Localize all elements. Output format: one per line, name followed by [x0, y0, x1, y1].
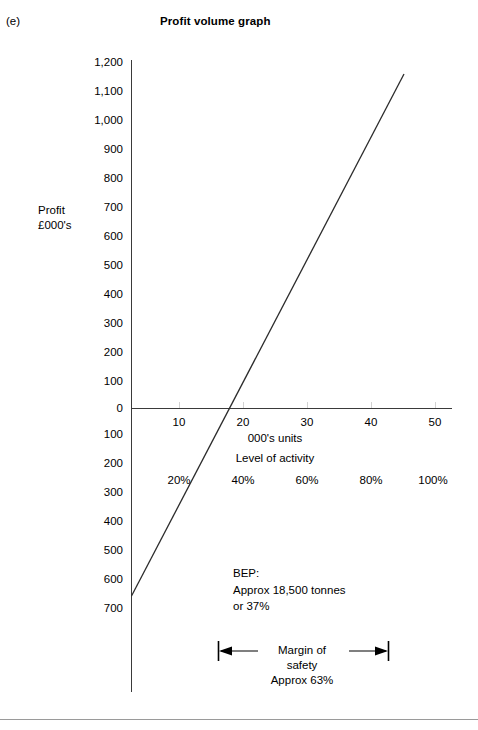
margin-of-safety-line2: safety — [244, 658, 360, 673]
margin-of-safety-percent: Approx 63% — [244, 673, 360, 687]
bep-tonnes: Approx 18,500 tonnes — [233, 582, 346, 599]
margin-left-arrowhead-icon — [219, 647, 232, 656]
margin-right-arrowhead-icon — [375, 647, 388, 656]
profit-volume-graph-page: (e) Profit volume graph 1,200 1,100 1,00… — [0, 0, 478, 730]
chart-overlay — [0, 0, 478, 730]
bep-label: BEP: — [233, 565, 346, 582]
margin-of-safety-label: Margin of safety — [244, 643, 360, 672]
bep-annotation: BEP: Approx 18,500 tonnes or 37% — [233, 565, 346, 615]
bep-percent: or 37% — [233, 598, 346, 615]
plot-area: 1,200 1,100 1,000 900 800 700 600 500 40… — [0, 0, 478, 730]
page-divider — [0, 719, 478, 720]
profit-line-series — [132, 74, 405, 596]
margin-of-safety-line1: Margin of — [244, 643, 360, 658]
